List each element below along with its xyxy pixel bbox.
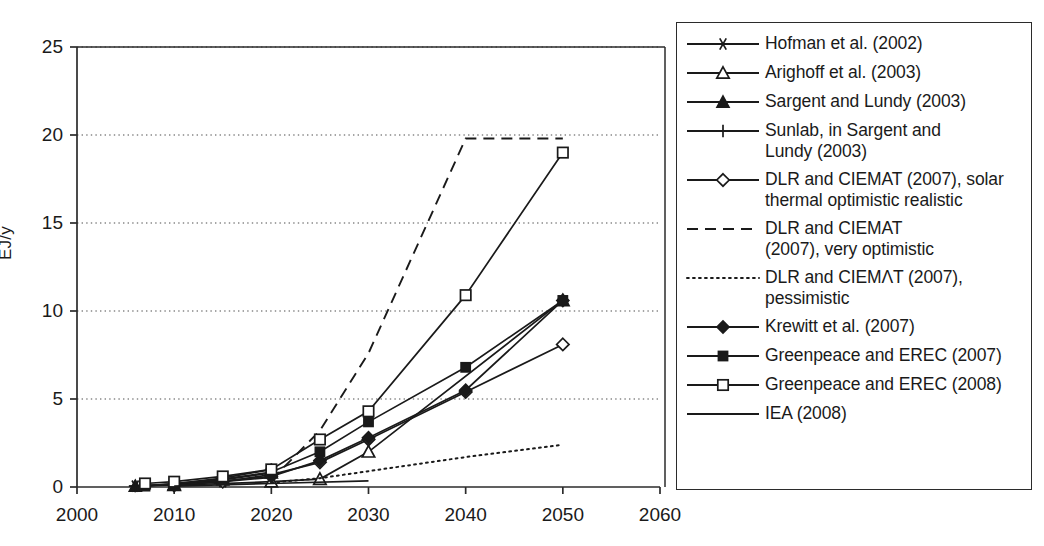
- marker-open-triangle: [362, 446, 374, 457]
- legend-swatch: [685, 374, 761, 396]
- marker-filled-square: [718, 351, 727, 360]
- legend-item[interactable]: Sargent and Lundy (2003): [685, 91, 1025, 113]
- marker-filled-diamond: [717, 321, 729, 333]
- x-tick-label: 2050: [528, 505, 598, 524]
- series-line: [145, 300, 563, 486]
- legend-marker-icon: [685, 267, 761, 289]
- legend-marker-icon: [685, 91, 761, 113]
- legend-label: DLR and CIEMΛT (2007), pessimistic: [761, 267, 963, 309]
- legend-item[interactable]: DLR and CIEMAT (2007), very optimistic: [685, 218, 1025, 260]
- legend-label: Sargent and Lundy (2003): [761, 91, 966, 112]
- series-1: [168, 294, 569, 490]
- legend-swatch: [685, 169, 761, 191]
- y-tick-label: 5: [17, 389, 63, 408]
- x-tick-label: 2020: [236, 505, 306, 524]
- legend-item[interactable]: Krewitt et al. (2007): [685, 316, 1025, 338]
- y-tick-label: 20: [17, 125, 63, 144]
- marker-open-square: [460, 290, 470, 300]
- legend-item[interactable]: Hofman et al. (2002): [685, 33, 1025, 55]
- marker-open-diamond: [557, 338, 569, 350]
- legend-marker-icon: [685, 316, 761, 338]
- marker-open-square: [266, 464, 276, 474]
- marker-asterisk: [717, 38, 730, 49]
- marker-filled-square: [315, 447, 324, 456]
- legend-item[interactable]: Greenpeace and EREC (2008): [685, 374, 1025, 396]
- legend-label: DLR and CIEMAT (2007), solar thermal opt…: [761, 169, 1004, 211]
- marker-open-diamond: [717, 174, 729, 186]
- marker-open-square: [315, 434, 325, 444]
- series-line: [271, 139, 563, 480]
- chart-legend: Hofman et al. (2002)Arighoff et al. (200…: [676, 22, 1032, 490]
- legend-swatch: [685, 267, 761, 289]
- legend-label: Krewitt et al. (2007): [761, 316, 915, 337]
- line-chart: EJ/y 2520151050 200020102020203020402050…: [0, 0, 672, 546]
- marker-plus: [717, 125, 729, 137]
- legend-label: DLR and CIEMAT (2007), very optimistic: [761, 218, 934, 260]
- legend-item[interactable]: Arighoff et al. (2003): [685, 62, 1025, 84]
- marker-filled-square: [461, 363, 470, 372]
- x-tick-label: 2010: [139, 505, 209, 524]
- series-5: [271, 139, 563, 480]
- x-tick-label: 2030: [334, 505, 404, 524]
- legend-label: Sunlab, in Sargent and Lundy (2003): [761, 120, 941, 162]
- series-7: [168, 294, 569, 491]
- legend-marker-icon: [685, 374, 761, 396]
- y-tick-label: 25: [17, 37, 63, 56]
- legend-label: Greenpeace and EREC (2008): [761, 374, 1002, 395]
- legend-marker-icon: [685, 169, 761, 191]
- legend-item[interactable]: DLR and CIEMAT (2007), solar thermal opt…: [685, 169, 1025, 211]
- plot-canvas: [0, 0, 672, 546]
- y-tick-label: 15: [17, 213, 63, 232]
- legend-item[interactable]: IEA (2008): [685, 403, 1025, 425]
- x-tick-label: 2060: [625, 505, 695, 524]
- legend-swatch: [685, 33, 761, 55]
- marker-open-square: [140, 478, 150, 488]
- x-tick-label: 2000: [42, 505, 112, 524]
- marker-open-square: [218, 471, 228, 481]
- legend-swatch: [685, 62, 761, 84]
- legend-swatch: [685, 316, 761, 338]
- legend-label: Hofman et al. (2002): [761, 33, 923, 54]
- legend-swatch: [685, 345, 761, 367]
- legend-marker-icon: [685, 62, 761, 84]
- legend-marker-icon: [685, 345, 761, 367]
- marker-filled-square: [364, 417, 373, 426]
- x-tick-label: 2040: [431, 505, 501, 524]
- legend-marker-icon: [685, 218, 761, 240]
- legend-label: IEA (2008): [761, 403, 847, 424]
- legend-item[interactable]: Sunlab, in Sargent and Lundy (2003): [685, 120, 1025, 162]
- series-8: [140, 296, 567, 491]
- legend-swatch: [685, 120, 761, 142]
- legend-swatch: [685, 91, 761, 113]
- y-tick-label: 0: [17, 477, 63, 496]
- y-axis-title: EJ/y: [0, 226, 16, 260]
- marker-open-square: [718, 380, 728, 390]
- legend-swatch: [685, 403, 761, 425]
- chart-page: EJ/y 2520151050 200020102020203020402050…: [0, 0, 1044, 546]
- legend-marker-icon: [685, 33, 761, 55]
- legend-label: Arighoff et al. (2003): [761, 62, 921, 83]
- legend-label: Greenpeace and EREC (2007): [761, 345, 1002, 366]
- legend-marker-icon: [685, 120, 761, 142]
- marker-open-square: [363, 406, 373, 416]
- legend-item[interactable]: DLR and CIEMΛT (2007), pessimistic: [685, 267, 1025, 309]
- legend-swatch: [685, 218, 761, 240]
- legend-item[interactable]: Greenpeace and EREC (2007): [685, 345, 1025, 367]
- y-tick-label: 10: [17, 301, 63, 320]
- legend-marker-icon: [685, 403, 761, 425]
- marker-filled-square: [558, 296, 567, 305]
- marker-open-square: [558, 147, 568, 157]
- series-9: [140, 147, 568, 488]
- series-line: [145, 153, 563, 484]
